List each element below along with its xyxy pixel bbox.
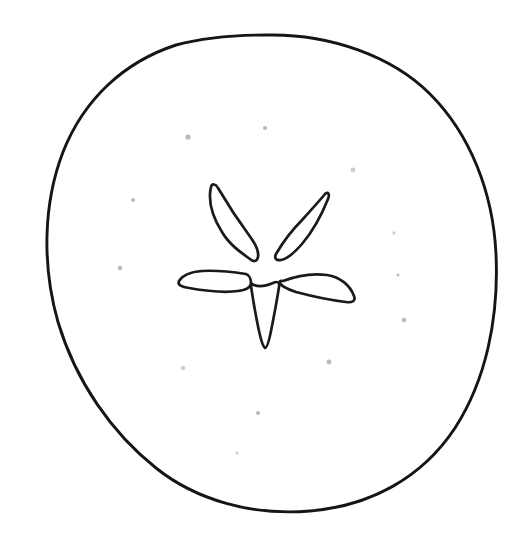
speck-7 <box>397 274 400 277</box>
speck-2 <box>263 126 267 130</box>
speck-8 <box>402 318 407 323</box>
speck-6 <box>392 231 395 234</box>
petal-left <box>179 271 251 292</box>
speck-10 <box>327 360 332 365</box>
speck-4 <box>131 198 135 202</box>
speck-5 <box>118 266 122 270</box>
speck-3 <box>351 168 356 173</box>
drawing-canvas <box>0 0 516 536</box>
speck-9 <box>181 366 186 371</box>
line-drawing-svg <box>0 0 516 536</box>
speck-11 <box>256 411 260 415</box>
speck-1 <box>185 134 190 139</box>
speck-12 <box>235 451 238 454</box>
